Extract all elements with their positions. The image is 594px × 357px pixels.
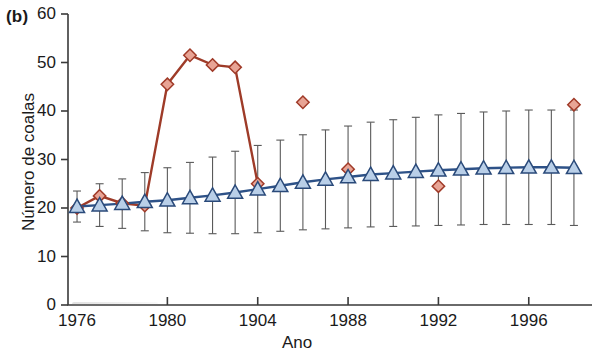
chart-figure: (b) Número de coalas Ano 0102030405060 1… bbox=[0, 0, 594, 357]
axis-lines bbox=[68, 14, 592, 305]
marker-diamond bbox=[297, 96, 309, 108]
marker-diamond bbox=[568, 98, 580, 110]
marker-diamond bbox=[432, 180, 444, 192]
marker-diamond bbox=[206, 59, 218, 71]
scan-smudge bbox=[72, 302, 158, 306]
marker-diamond bbox=[229, 61, 241, 73]
axes bbox=[61, 14, 592, 305]
